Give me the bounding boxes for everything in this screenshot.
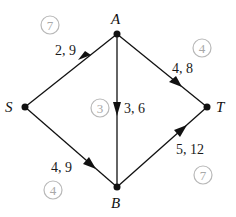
- edge-label-s-b: 4, 9: [51, 160, 72, 175]
- badge-a-b: 3: [91, 99, 109, 117]
- edge-a-b: [113, 34, 121, 187]
- badge-value: 3: [97, 101, 104, 116]
- badge-b-t: 7: [194, 166, 212, 184]
- edge-label-a-t: 4, 8: [172, 61, 193, 76]
- edge-label-s-a: 2, 9: [55, 43, 76, 58]
- node-dot: [114, 184, 121, 191]
- badge-a-t: 4: [193, 39, 211, 57]
- edge-label-b-t: 5, 12: [176, 142, 204, 157]
- badge-value: 4: [50, 183, 57, 198]
- arrow-icon: [113, 102, 121, 116]
- node-label: T: [216, 99, 226, 115]
- node-label: S: [5, 99, 13, 115]
- edge-label-a-b: 3, 6: [124, 101, 145, 116]
- network-diagram: S A B T 2, 9 4, 8 3, 6 4, 9 5, 12 7 4 3 …: [0, 0, 236, 217]
- node-t: T: [204, 99, 227, 115]
- node-dot: [204, 104, 211, 111]
- edge-line: [25, 107, 117, 187]
- node-a: A: [110, 11, 121, 38]
- badge-value: 7: [200, 168, 207, 183]
- node-b: B: [111, 184, 121, 212]
- arrow-icon: [78, 51, 91, 60]
- node-dot: [22, 104, 29, 111]
- node-label: B: [111, 195, 120, 211]
- badge-value: 7: [47, 18, 54, 33]
- edge-s-b: [25, 107, 117, 187]
- badge-s-b: 4: [44, 181, 62, 199]
- badge-value: 4: [199, 41, 206, 56]
- badge-s-a: 7: [41, 16, 59, 34]
- node-s: S: [5, 99, 29, 115]
- node-dot: [114, 31, 121, 38]
- node-label: A: [110, 11, 121, 27]
